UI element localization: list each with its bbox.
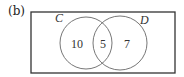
d-only-count: 7: [124, 37, 130, 51]
venn-diagram: C D 10 5 7: [0, 0, 184, 77]
set-c-label: C: [55, 11, 64, 25]
set-d-label: D: [139, 13, 149, 27]
c-only-count: 10: [71, 37, 83, 51]
intersection-count: 5: [100, 37, 106, 51]
